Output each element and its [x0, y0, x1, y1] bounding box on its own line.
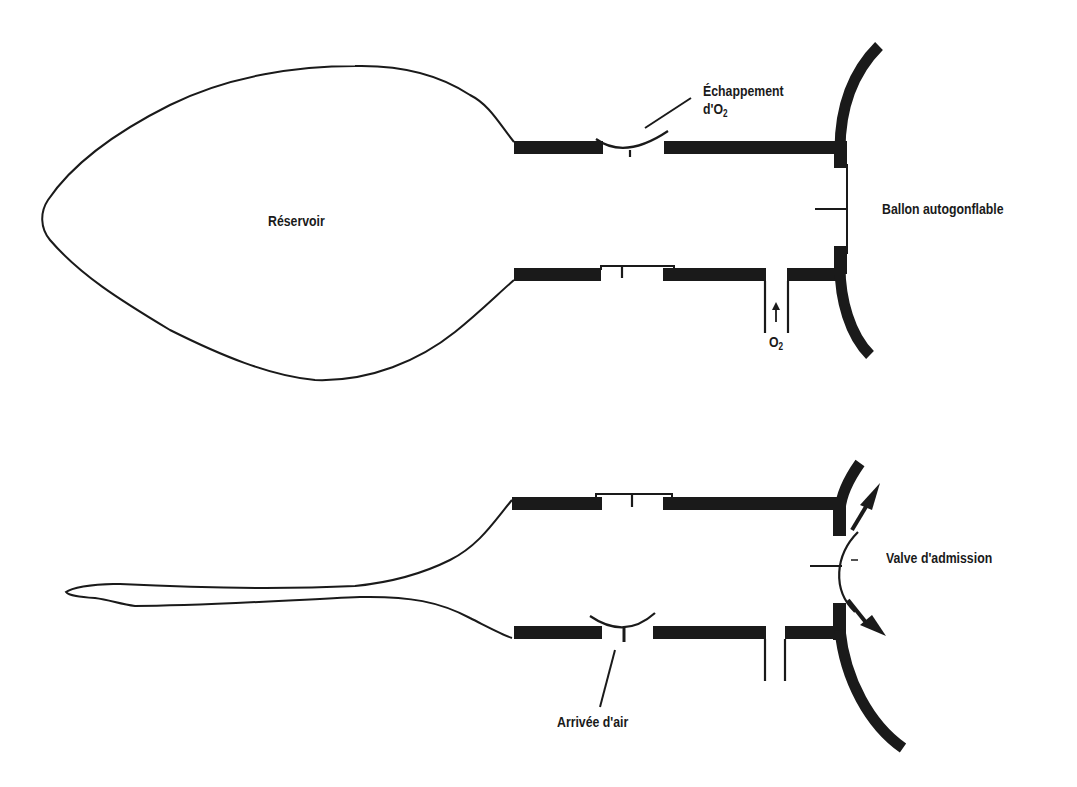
bag-wall-top — [840, 46, 879, 150]
label-oxygen-exhaust-line2: d'O2 — [703, 100, 784, 123]
label-self-inflating-bag: Ballon autogonflable — [882, 200, 1004, 218]
label-reservoir: Réservoir — [268, 212, 325, 230]
label-oxygen-exhaust-line1: Échappement — [703, 82, 784, 100]
exhaust-valve-closed — [596, 494, 672, 498]
exhaust-valve-flap — [596, 131, 668, 148]
o2-prefix: O — [769, 333, 779, 350]
label-oxygen-inlet: O2 — [769, 333, 783, 356]
exhaust-subscript: 2 — [723, 108, 728, 119]
o2-arrow-head — [772, 302, 780, 310]
top-tube-upper-right — [664, 141, 836, 154]
bottom-tube-lower-left — [514, 626, 602, 639]
bvm-diagram — [0, 0, 1077, 787]
bottom-tube-lower-mid — [653, 626, 766, 639]
bottom-tube-upper-left — [512, 497, 602, 510]
label-oxygen-exhaust: Échappement d'O2 — [703, 82, 784, 123]
reservoir-collapsed-outline — [66, 500, 512, 638]
label-bag-text: Ballon autogonflable — [882, 200, 1004, 217]
label-reservoir-text: Réservoir — [268, 212, 325, 229]
air-inlet-valve-flap — [590, 613, 655, 627]
flow-arrow-up-head — [860, 483, 880, 510]
exhaust-leader — [645, 98, 691, 128]
label-intake-valve: Valve d'admission — [886, 549, 992, 567]
bottom-bag-block-top — [833, 497, 846, 536]
bag-valve-block-top — [834, 141, 847, 168]
bag-valve-block-bottom — [834, 246, 847, 274]
top-tube-lower-right — [787, 268, 837, 281]
o2-subscript: 2 — [779, 341, 784, 352]
bottom-tube-upper-right — [663, 497, 836, 510]
label-air-inlet: Arrivée d'air — [557, 713, 628, 731]
top-tube-upper-left — [514, 141, 603, 154]
air-inlet-leader — [600, 650, 615, 707]
bottom-panel — [66, 463, 903, 748]
label-air-inlet-text: Arrivée d'air — [557, 713, 628, 730]
bottom-bag-wall-bottom — [840, 630, 903, 748]
exhaust-prefix: d'O — [703, 100, 723, 117]
label-intake-valve-text: Valve d'admission — [886, 549, 992, 566]
top-tube-lower-left — [514, 268, 601, 281]
bottom-tube-lower-right — [785, 626, 836, 639]
bag-wall-bottom — [840, 266, 870, 355]
top-tube-lower-mid — [663, 268, 766, 281]
